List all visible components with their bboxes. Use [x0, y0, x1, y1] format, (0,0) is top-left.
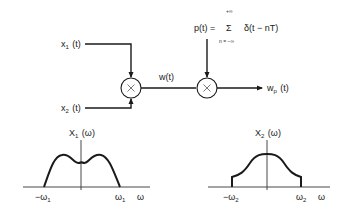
- w-label: w(t): [159, 72, 174, 82]
- multiplier-1: [121, 78, 141, 98]
- x1-signal-path: [85, 44, 131, 77]
- spectrum-x1-right-tick-sub: 1: [122, 197, 125, 203]
- spectrum-x1-right-tick-text: ω: [115, 192, 122, 202]
- spectrum-x2-left-tick-sub: 2: [235, 197, 238, 203]
- spectrum-x1-plot: [23, 140, 150, 190]
- spectrum-x2-left-tick-text: −ω: [223, 192, 235, 202]
- x2-label-base: x: [61, 103, 66, 113]
- spectrum-x2-right-tick-text: ω: [296, 192, 303, 202]
- x2-signal-path: [85, 99, 131, 108]
- spectrum-x2-title-sub: 2: [261, 133, 264, 139]
- spectrum-x2-right-tick-sub: 2: [303, 197, 306, 203]
- spectrum-x1-left-tick-sub: 1: [47, 197, 50, 203]
- output-label-arg: (t): [278, 83, 289, 93]
- spectrum-x2-title-arg: (ω): [265, 128, 281, 138]
- spectrum-x1-title-sub: 1: [75, 133, 78, 139]
- spectrum-x1-title: X1 (ω): [69, 128, 95, 139]
- impulse-term: δ(t − nT): [244, 23, 278, 33]
- x1-label: x1 (t): [61, 39, 81, 50]
- x1-label-base: x: [61, 39, 66, 49]
- spectrum-x1-left-tick: −ω1: [35, 192, 52, 203]
- spectrum-x1-axis-label: ω: [137, 192, 144, 202]
- x1-label-arg: (t): [70, 39, 81, 49]
- spectrum-x1-left-tick-text: −ω: [35, 192, 47, 202]
- spectrum-x2-left-tick: −ω2: [223, 192, 240, 203]
- impulse-lhs: p(t) =: [194, 23, 215, 33]
- spectrum-x2-axis-label: ω: [318, 192, 325, 202]
- spectrum-x1-title-arg: (ω): [79, 128, 95, 138]
- sum-upper-limit: +∞: [226, 8, 232, 14]
- x2-label-sub: 2: [66, 108, 69, 114]
- x2-label: x2 (t): [61, 103, 81, 114]
- spectrum-x2-right-tick: ω2: [296, 192, 307, 203]
- output-label-base: w: [267, 83, 274, 93]
- sum-lower-limit: n = −∞: [219, 38, 234, 44]
- spectrum-x2-plot: [208, 140, 330, 190]
- spectrum-x2-title: X2 (ω): [255, 128, 281, 139]
- x2-label-arg: (t): [70, 103, 81, 113]
- diagram-canvas: [0, 0, 341, 209]
- output-label-sub: p: [274, 88, 277, 94]
- sum-symbol: Σ: [226, 23, 232, 33]
- x1-label-sub: 1: [66, 44, 69, 50]
- spectrum-x1-right-tick: ω1: [115, 192, 126, 203]
- multiplier-2: [197, 78, 217, 98]
- output-label: wp (t): [267, 83, 289, 94]
